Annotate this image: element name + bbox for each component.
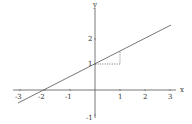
y-tick-label: 1 — [88, 60, 92, 68]
x-tick-label: -2 — [38, 93, 45, 101]
y-tick-label: 2 — [88, 35, 92, 43]
x-tick-label: -1 — [65, 93, 72, 101]
x-axis-label: x — [180, 86, 184, 94]
plot-area: -3 -2 -1 1 2 3 2 1 -1 y x — [0, 0, 192, 124]
y-axis-label: y — [92, 1, 97, 9]
y-tick-label: -1 — [86, 114, 93, 122]
function-line — [18, 25, 171, 103]
x-tick-label: 2 — [143, 93, 147, 101]
x-tick-label: 3 — [168, 93, 172, 101]
x-tick-label: -3 — [15, 93, 22, 101]
x-tick-label: 1 — [118, 93, 122, 101]
